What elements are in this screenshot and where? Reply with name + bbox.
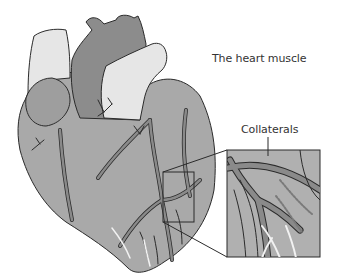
collaterals-label: Collaterals bbox=[241, 123, 298, 136]
heart-muscle-label: The heart muscle bbox=[212, 52, 306, 65]
inset-magnified-view bbox=[227, 150, 320, 260]
heart-diagram bbox=[0, 0, 337, 274]
